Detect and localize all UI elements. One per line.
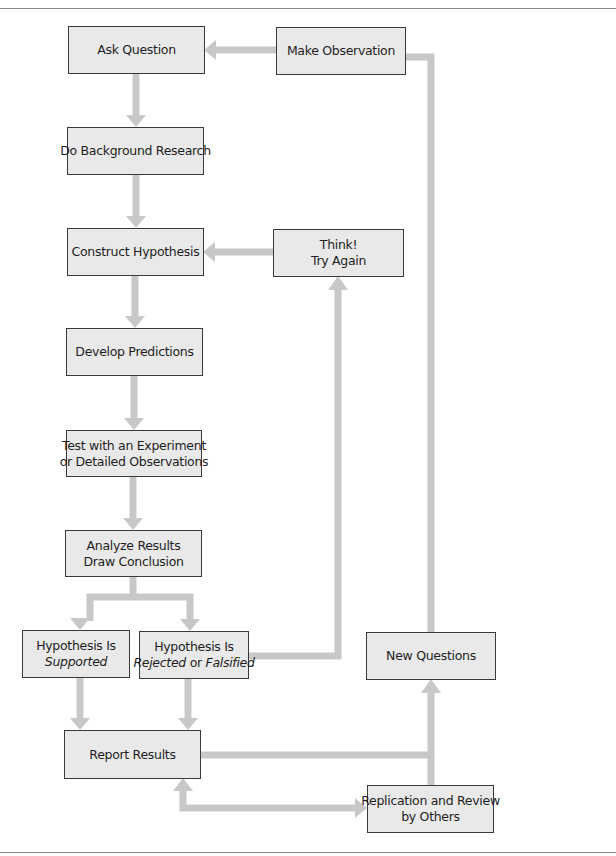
- node-label: Do Background Research: [60, 143, 211, 159]
- node-construct-hypothesis: Construct Hypothesis: [67, 228, 204, 276]
- arrowhead-construct-left: [203, 242, 215, 262]
- arrow-analyze-split: [90, 576, 190, 621]
- node-label-line1: Hypothesis Is: [154, 639, 234, 655]
- or-text: or: [186, 655, 206, 670]
- node-label-line1: Hypothesis Is: [36, 638, 116, 654]
- arrowhead-predictions: [125, 316, 145, 328]
- arrow-newquestions-to-observation: [405, 57, 431, 632]
- node-label-line1: Think!: [320, 237, 357, 253]
- arrow-rejected-to-think: [248, 288, 338, 656]
- node-label: New Questions: [386, 648, 476, 664]
- node-label-line2: Supported: [45, 654, 107, 670]
- node-label-line1: Test with an Experiment: [62, 438, 206, 454]
- arrow-report-replication: [183, 789, 356, 808]
- node-make-observation: Make Observation: [276, 27, 406, 75]
- node-label-line1: Analyze Results: [87, 538, 181, 554]
- node-hypothesis-supported: Hypothesis Is Supported: [22, 630, 130, 678]
- arrowhead-ask: [204, 40, 216, 60]
- arrowhead-analyze: [123, 518, 143, 530]
- arrowhead-newquestions: [421, 679, 441, 693]
- node-label-line2: by Others: [401, 809, 460, 825]
- node-replication-review: Replication and Review by Others: [367, 785, 494, 833]
- node-ask-question: Ask Question: [68, 26, 205, 74]
- node-label-line1: Replication and Review: [361, 793, 500, 809]
- node-label-line2: Draw Conclusion: [83, 554, 183, 570]
- node-background-research: Do Background Research: [67, 127, 204, 175]
- arrowhead-think: [328, 276, 348, 290]
- arrowhead-test: [124, 418, 144, 430]
- node-hypothesis-rejected: Hypothesis Is Rejected or Falsified: [139, 631, 249, 679]
- node-label: Make Observation: [287, 43, 395, 59]
- node-label: Construct Hypothesis: [72, 244, 200, 260]
- arrowhead-report-left: [70, 718, 90, 730]
- node-develop-predictions: Develop Predictions: [66, 328, 203, 376]
- arrowhead-report-right: [178, 718, 198, 730]
- arrowhead-report-up: [173, 778, 193, 791]
- falsified-text: Falsified: [206, 655, 255, 670]
- node-analyze-results: Analyze Results Draw Conclusion: [65, 530, 202, 577]
- node-new-questions: New Questions: [366, 632, 496, 680]
- node-label: Report Results: [89, 747, 175, 763]
- node-label-line2: or Detailed Observations: [60, 454, 209, 470]
- node-report-results: Report Results: [64, 730, 201, 779]
- arrowhead-rejected: [180, 619, 200, 631]
- node-test-experiment: Test with an Experiment or Detailed Obse…: [66, 430, 202, 477]
- arrowhead-research: [126, 115, 146, 127]
- node-think-try-again: Think! Try Again: [273, 229, 404, 277]
- node-label: Ask Question: [97, 42, 176, 58]
- node-label: Develop Predictions: [75, 344, 193, 360]
- node-label-line2: Rejected or Falsified: [133, 655, 254, 671]
- node-label-line2: Try Again: [311, 253, 366, 269]
- arrowhead-supported: [70, 618, 90, 630]
- arrow-report-to-newquestions: [200, 691, 431, 755]
- rejected-text: Rejected: [133, 655, 186, 670]
- arrowhead-construct: [126, 216, 146, 228]
